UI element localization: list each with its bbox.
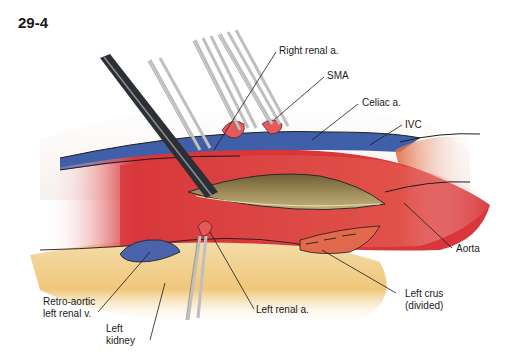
label-left-kidney: Left kidney	[106, 323, 135, 347]
label-left-kidney-line1: Left	[106, 323, 135, 335]
label-retro-aortic-line1: Retro-aortic	[43, 296, 95, 308]
label-retro-aortic-line2: left renal v.	[43, 308, 95, 320]
label-left-crus-line2: (divided)	[405, 300, 443, 312]
label-sma: SMA	[327, 70, 349, 82]
label-ivc: IVC	[405, 119, 422, 131]
label-right-renal-artery: Right renal a.	[279, 45, 338, 57]
label-left-crus: Left crus (divided)	[405, 288, 443, 312]
label-retro-aortic-left-renal-vein: Retro-aortic left renal v.	[43, 296, 95, 320]
label-left-renal-artery: Left renal a.	[256, 304, 309, 316]
label-celiac-artery: Celiac a.	[362, 97, 401, 109]
label-left-crus-line1: Left crus	[405, 288, 443, 300]
label-left-kidney-line2: kidney	[106, 335, 135, 347]
label-aorta: Aorta	[456, 243, 480, 255]
